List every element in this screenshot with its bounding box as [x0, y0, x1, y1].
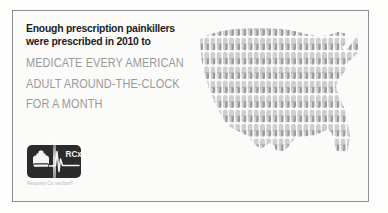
pill-capsule	[241, 66, 246, 79]
pill-capsule	[341, 52, 346, 65]
pill-capsule	[266, 37, 271, 50]
pill-capsule	[223, 124, 228, 137]
pill-capsule	[223, 138, 228, 151]
pill-capsule	[322, 124, 327, 137]
pill-capsule	[260, 52, 265, 65]
pill-capsule	[266, 52, 271, 65]
pill-capsule	[241, 124, 246, 137]
pill-capsule	[341, 95, 346, 108]
pill-capsule	[248, 81, 253, 94]
pill-capsule	[254, 52, 259, 65]
pill-grid	[198, 23, 358, 151]
pill-capsule	[316, 37, 321, 50]
pill-capsule	[248, 66, 253, 79]
pill-capsule	[303, 124, 308, 137]
pill-capsule	[310, 124, 315, 137]
pill-capsule	[210, 95, 215, 108]
pill-capsule	[229, 37, 234, 50]
pill-capsule	[310, 37, 315, 50]
pill-capsule	[353, 81, 358, 94]
pill-capsule	[310, 138, 315, 151]
pill-capsule	[310, 81, 315, 94]
pill-capsule	[248, 124, 253, 137]
pill-capsule	[229, 52, 234, 65]
pill-capsule	[198, 37, 203, 50]
pill-capsule	[322, 52, 327, 65]
pill-capsule	[260, 95, 265, 108]
brand-logo: RCx Recovery Connection®	[27, 145, 81, 186]
pill-capsule	[347, 138, 352, 151]
pill-capsule	[347, 81, 352, 94]
pill-capsule	[341, 37, 346, 50]
pill-capsule	[322, 23, 327, 36]
pill-capsule	[328, 109, 333, 122]
pill-capsule	[235, 95, 240, 108]
pill-capsule	[347, 124, 352, 137]
pill-capsule	[322, 109, 327, 122]
pill-capsule	[266, 109, 271, 122]
pill-capsule	[322, 81, 327, 94]
pill-capsule	[241, 81, 246, 94]
pill-capsule	[248, 138, 253, 151]
pill-capsule	[291, 52, 296, 65]
pill-capsule	[223, 66, 228, 79]
pill-capsule	[334, 52, 339, 65]
pill-capsule	[204, 23, 209, 36]
pill-capsule	[353, 66, 358, 79]
pill-capsule	[353, 109, 358, 122]
pill-capsule	[316, 124, 321, 137]
pill-capsule	[266, 95, 271, 108]
pill-capsule	[210, 138, 215, 151]
pill-capsule	[279, 66, 284, 79]
infographic-canvas: Enough prescription painkillers were pre…	[0, 0, 388, 213]
pill-capsule	[316, 109, 321, 122]
pill-capsule	[303, 109, 308, 122]
pill-capsule	[248, 95, 253, 108]
pill-capsule	[217, 66, 222, 79]
pill-capsule	[279, 37, 284, 50]
pill-capsule	[297, 81, 302, 94]
pill-capsule	[223, 109, 228, 122]
pill-capsule	[260, 124, 265, 137]
pill-capsule	[198, 81, 203, 94]
pill-capsule	[285, 37, 290, 50]
pill-capsule	[291, 37, 296, 50]
pill-capsule	[285, 138, 290, 151]
pill-capsule	[217, 37, 222, 50]
pill-capsule	[229, 23, 234, 36]
pill-capsule	[347, 109, 352, 122]
pill-capsule	[334, 138, 339, 151]
pill-capsule	[347, 95, 352, 108]
pill-capsule	[248, 37, 253, 50]
pill-capsule	[272, 52, 277, 65]
pill-capsule	[254, 66, 259, 79]
pill-capsule	[334, 81, 339, 94]
pill-capsule	[310, 95, 315, 108]
pill-capsule	[297, 124, 302, 137]
pill-capsule	[198, 23, 203, 36]
pill-capsule	[217, 81, 222, 94]
pill-capsule	[272, 66, 277, 79]
pill-capsule	[210, 81, 215, 94]
pill-capsule	[266, 81, 271, 94]
pill-capsule	[303, 81, 308, 94]
pill-capsule	[241, 138, 246, 151]
pill-capsule	[254, 81, 259, 94]
pill-capsule	[285, 52, 290, 65]
pill-capsule	[272, 124, 277, 137]
pill-capsule	[322, 37, 327, 50]
copy-block: Enough prescription painkillers were pre…	[26, 22, 191, 115]
pill-capsule	[279, 124, 284, 137]
pill-capsule	[341, 124, 346, 137]
pill-capsule	[254, 109, 259, 122]
pill-capsule	[248, 23, 253, 36]
pill-capsule	[260, 23, 265, 36]
pill-capsule	[241, 109, 246, 122]
pill-capsule	[266, 23, 271, 36]
pill-capsule	[223, 37, 228, 50]
pill-capsule	[328, 23, 333, 36]
pill-capsule	[204, 81, 209, 94]
pill-capsule	[266, 124, 271, 137]
pill-capsule	[334, 23, 339, 36]
pill-capsule	[272, 23, 277, 36]
